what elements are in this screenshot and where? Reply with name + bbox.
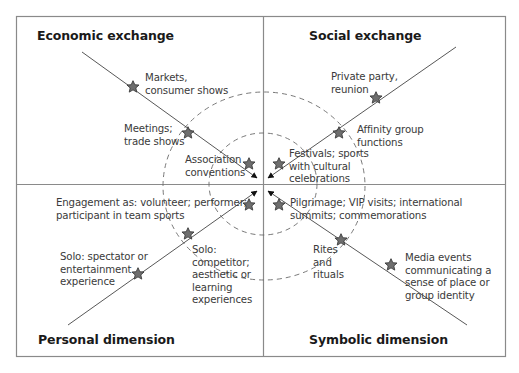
star-icon bbox=[273, 199, 285, 210]
outer-border bbox=[17, 17, 506, 357]
diagram-canvas bbox=[0, 0, 519, 373]
label-private-party: Private party, reunion bbox=[331, 71, 398, 96]
diagram-frame: Economic exchange Social exchange Person… bbox=[0, 0, 519, 373]
label-pilgrimage: Pilgrimage; VIP visits; international su… bbox=[290, 197, 462, 222]
heading-social-exchange: Social exchange bbox=[309, 28, 421, 43]
label-solo-spectator: Solo: spectator or entertainment experie… bbox=[60, 251, 148, 289]
star-icon bbox=[385, 259, 397, 270]
heading-symbolic-dimension: Symbolic dimension bbox=[309, 332, 448, 347]
label-markets: Markets, consumer shows bbox=[145, 72, 228, 97]
heading-personal-dimension: Personal dimension bbox=[38, 332, 175, 347]
heading-economic-exchange: Economic exchange bbox=[37, 28, 174, 43]
star-icon bbox=[127, 81, 139, 92]
label-meetings: Meetings; trade shows bbox=[124, 123, 184, 148]
label-rites: Rites and rituals bbox=[313, 244, 344, 282]
label-association: Association conventions bbox=[185, 154, 245, 179]
label-engagement: Engagement as: volunteer; performer; par… bbox=[56, 197, 247, 222]
label-affinity: Affinity group functions bbox=[357, 124, 424, 149]
label-festivals: Festivals; sports with cultural celebrat… bbox=[289, 148, 369, 186]
label-solo-competitor: Solo: competitor; aesthetic or learning … bbox=[192, 244, 252, 307]
star-icon bbox=[333, 127, 345, 138]
label-media: Media events communicating a sense of pl… bbox=[405, 252, 491, 302]
